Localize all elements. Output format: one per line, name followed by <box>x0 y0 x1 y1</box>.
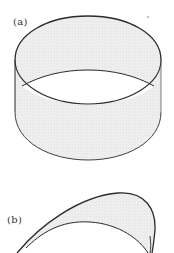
surface-fill <box>17 193 155 253</box>
speck-mark <box>147 16 149 18</box>
figure: (a) (b) <box>0 0 174 253</box>
panel-a-cylinder <box>15 16 161 160</box>
panel-label-b: (b) <box>7 214 22 225</box>
panel-b-surface <box>17 193 155 253</box>
panel-label-a: (a) <box>13 16 28 27</box>
figure-drawing <box>0 0 174 253</box>
